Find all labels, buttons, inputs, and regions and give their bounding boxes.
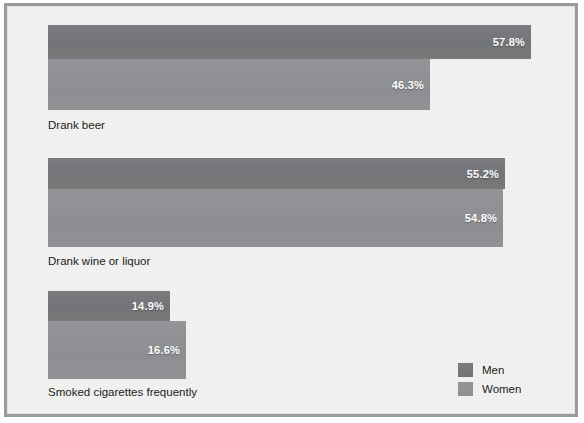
bar-men-smoked-cigarettes-frequently[interactable]: 14.9% <box>48 291 170 321</box>
legend-item-women[interactable]: Women <box>458 380 521 397</box>
bar-value-men-drank-wine-or-liquor: 55.2% <box>467 168 499 180</box>
legend-item-men[interactable]: Men <box>458 361 521 378</box>
category-label-smoked-cigarettes-frequently: Smoked cigarettes frequently <box>48 386 197 398</box>
bar-men-drank-beer[interactable]: 57.8% <box>48 25 531 59</box>
bar-group-drank-wine-or-liquor: 55.2% 54.8% Drank wine or liquor <box>7 136 575 266</box>
bar-value-men-drank-beer: 57.8% <box>493 36 525 48</box>
bar-value-women-smoked-cigarettes-frequently: 16.6% <box>148 344 180 356</box>
bar-women-drank-beer[interactable]: 46.3% <box>48 59 430 110</box>
grouped-bar-chart-figure: 57.8% 46.3% Drank beer 55.2% 54.8% Drank… <box>0 0 584 423</box>
bar-value-women-drank-beer: 46.3% <box>392 79 424 91</box>
chart-legend: Men Women <box>458 361 521 399</box>
legend-swatch-women-icon <box>458 382 473 396</box>
bar-group-drank-beer: 57.8% 46.3% Drank beer <box>7 6 575 136</box>
category-label-drank-beer: Drank beer <box>48 119 105 131</box>
bar-women-smoked-cigarettes-frequently[interactable]: 16.6% <box>48 321 186 379</box>
bar-men-drank-wine-or-liquor[interactable]: 55.2% <box>48 158 505 189</box>
legend-label-men: Men <box>482 364 504 376</box>
legend-label-women: Women <box>482 383 521 395</box>
bar-value-men-smoked-cigarettes-frequently: 14.9% <box>132 300 164 312</box>
bar-women-drank-wine-or-liquor[interactable]: 54.8% <box>48 189 503 247</box>
bar-value-women-drank-wine-or-liquor: 54.8% <box>465 212 497 224</box>
legend-swatch-men-icon <box>458 363 473 377</box>
plot-area: 57.8% 46.3% Drank beer 55.2% 54.8% Drank… <box>7 6 575 414</box>
chart-frame-border: 57.8% 46.3% Drank beer 55.2% 54.8% Drank… <box>4 3 578 417</box>
